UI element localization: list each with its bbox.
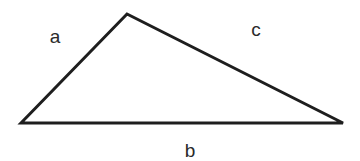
side-label-b: b xyxy=(185,140,196,161)
side-label-a: a xyxy=(50,26,61,47)
triangle-shape xyxy=(21,14,343,123)
side-label-c: c xyxy=(251,19,261,40)
triangle-diagram: a c b xyxy=(0,0,360,161)
